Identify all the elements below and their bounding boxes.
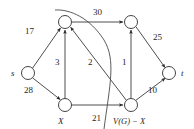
capacity-label-x-topleft: 3 [55, 58, 60, 67]
node-top-right[interactable] [125, 16, 138, 29]
node-label-vgx: V(G) − X [113, 117, 145, 126]
capacity-label-x-vgx: 21 [92, 114, 101, 123]
graph-canvas [0, 0, 194, 129]
node-t[interactable] [163, 67, 176, 80]
edge-vgx-to-topleft [71, 27, 127, 100]
capacity-label-topright-t: 25 [153, 33, 162, 42]
capacity-label-s-topleft: 17 [25, 27, 34, 36]
edges-group [33, 22, 166, 105]
node-top-left[interactable] [59, 16, 72, 29]
network-flow-figure: 17 28 3 2 1 30 25 10 21 s X V(G) − X t [0, 0, 194, 129]
node-x[interactable] [59, 99, 72, 112]
edge-s-to-x [33, 78, 61, 100]
capacity-label-vgx-topleft: 2 [88, 58, 93, 67]
node-label-s: s [11, 69, 15, 78]
capacity-label-vgx-topright: 1 [122, 58, 127, 67]
node-label-x: X [58, 117, 64, 126]
node-s[interactable] [22, 67, 35, 80]
node-vgx[interactable] [125, 99, 138, 112]
capacity-label-s-x: 28 [24, 86, 33, 95]
node-label-t: t [181, 69, 184, 78]
capacity-label-topleft-topright: 30 [93, 8, 102, 17]
capacity-label-vgx-t: 10 [148, 86, 157, 95]
